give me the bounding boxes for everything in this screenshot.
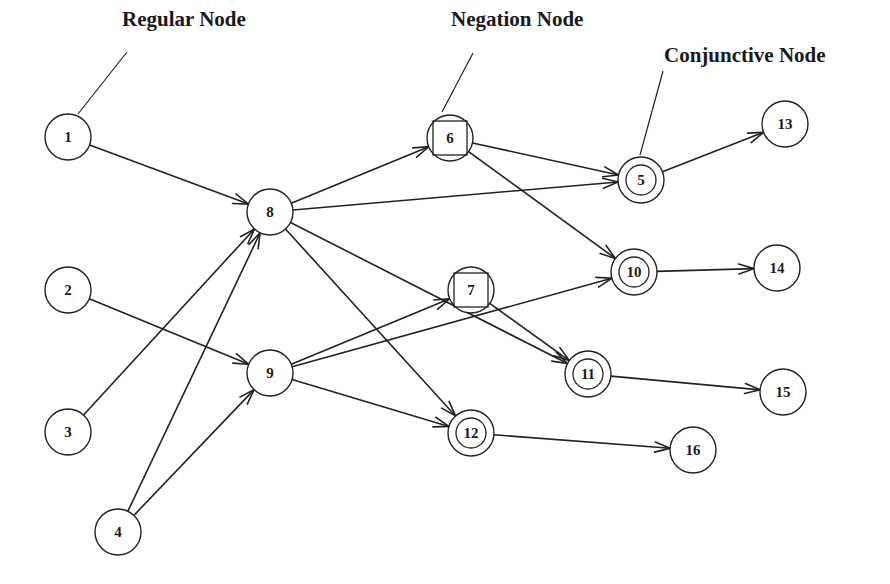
node-label: 13 — [778, 116, 793, 132]
edge-7-to-11 — [490, 303, 570, 360]
node-label: 2 — [64, 282, 72, 298]
node-label: 16 — [686, 442, 702, 458]
edge-8-to-6 — [291, 147, 428, 204]
node-label: 11 — [581, 366, 595, 382]
node-10-conjunctive[interactable]: 10 — [611, 249, 657, 295]
node-label: 8 — [266, 204, 274, 220]
node-label: 7 — [467, 282, 475, 298]
edge-9-to-12 — [292, 380, 449, 427]
legend-leader-negation — [442, 53, 473, 112]
node-14-regular[interactable]: 14 — [754, 245, 800, 291]
edge-8-to-12 — [285, 229, 455, 416]
legend-leader-conjunctive — [640, 71, 663, 155]
node-16-regular[interactable]: 16 — [670, 427, 716, 473]
node-8-regular[interactable]: 8 — [247, 189, 293, 235]
node-4-regular[interactable]: 4 — [95, 509, 141, 555]
node-9-regular[interactable]: 9 — [247, 350, 293, 396]
edge-5-to-13 — [662, 132, 763, 171]
node-3-regular[interactable]: 3 — [45, 409, 91, 455]
graph-svg: 12348967510111213141516 Regular NodeNega… — [0, 0, 890, 584]
node-11-conjunctive[interactable]: 11 — [565, 351, 611, 397]
edge-10-to-14 — [657, 264, 754, 274]
graph-diagram: 12348967510111213141516 Regular NodeNega… — [0, 0, 890, 584]
legend-label-conjunctive: Conjunctive Node — [664, 43, 826, 67]
node-label: 9 — [266, 365, 274, 381]
node-label: 5 — [637, 172, 645, 188]
legend-layer: Regular NodeNegation NodeConjunctive Nod… — [122, 7, 826, 67]
node-label: 14 — [770, 260, 786, 276]
legend-leaders-layer — [78, 52, 663, 155]
node-2-regular[interactable]: 2 — [45, 267, 91, 313]
node-label: 10 — [627, 264, 642, 280]
node-6-negation[interactable]: 6 — [427, 115, 473, 161]
edge-11-to-15 — [611, 376, 760, 393]
node-label: 12 — [464, 425, 479, 441]
edge-6-to-5 — [472, 143, 618, 177]
edge-8-to-11 — [290, 222, 567, 363]
edge-4-to-8 — [128, 233, 260, 511]
legend-leader-regular — [78, 52, 127, 114]
edge-1-to-8 — [90, 145, 249, 204]
node-label: 1 — [64, 129, 72, 145]
node-label: 4 — [114, 524, 122, 540]
edge-6-to-10 — [469, 152, 616, 259]
node-label: 6 — [446, 130, 454, 146]
legend-label-regular: Regular Node — [122, 7, 246, 31]
node-12-conjunctive[interactable]: 12 — [448, 410, 494, 456]
node-5-conjunctive[interactable]: 5 — [618, 157, 664, 203]
node-1-regular[interactable]: 1 — [45, 114, 91, 160]
edge-3-to-8 — [84, 229, 255, 415]
edge-9-to-7 — [291, 299, 449, 364]
node-15-regular[interactable]: 15 — [760, 369, 806, 415]
node-13-regular[interactable]: 13 — [762, 101, 808, 147]
legend-label-negation: Negation Node — [451, 7, 583, 31]
edge-4-to-9 — [134, 390, 254, 516]
node-label: 3 — [64, 424, 72, 440]
edge-12-to-16 — [494, 435, 670, 452]
node-label: 15 — [776, 384, 791, 400]
node-7-negation[interactable]: 7 — [448, 267, 494, 313]
